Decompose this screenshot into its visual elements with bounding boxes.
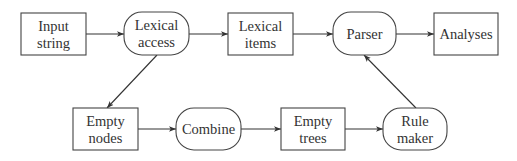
- node-label: Analyses: [439, 26, 493, 42]
- flowchart-diagram: InputstringLexicalaccessLexicalitemsPars…: [0, 0, 517, 161]
- node-analyses: Analyses: [434, 13, 498, 55]
- node-label: Combine: [182, 121, 235, 137]
- node-lexical-items: Lexicalitems: [228, 13, 293, 55]
- node-label: Empty: [294, 113, 333, 129]
- node-empty-trees: Emptytrees: [281, 108, 345, 150]
- node-label: items: [245, 35, 277, 51]
- node-input-string: Inputstring: [21, 13, 86, 55]
- node-empty-nodes: Emptynodes: [73, 108, 138, 150]
- node-label: trees: [299, 130, 327, 146]
- node-label: access: [138, 34, 175, 50]
- node-label: Parser: [346, 26, 382, 42]
- node-label: Input: [38, 18, 69, 34]
- node-combine: Combine: [176, 108, 241, 150]
- arrow-lexical-access-to-empty-nodes: [107, 55, 157, 108]
- node-label: nodes: [89, 130, 123, 146]
- node-lexical-access: Lexicalaccess: [124, 12, 189, 55]
- node-label: string: [37, 35, 70, 51]
- node-label: Rule: [401, 113, 428, 129]
- node-label: Empty: [86, 113, 125, 129]
- node-label: Lexical: [135, 17, 178, 33]
- node-rule-maker: Rulemaker: [383, 108, 447, 150]
- node-parser: Parser: [333, 12, 396, 55]
- arrow-rule-maker-to-parser: [364, 55, 416, 108]
- node-label: maker: [397, 130, 433, 146]
- node-label: Lexical: [239, 18, 282, 34]
